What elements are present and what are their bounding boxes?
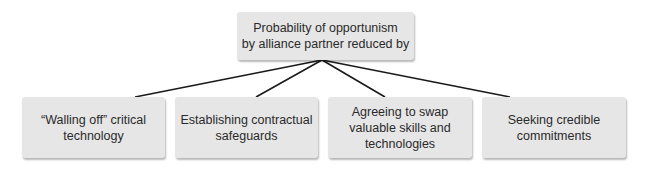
child-label-line2: commitments	[508, 128, 600, 144]
root-node: Probability of opportunism by alliance p…	[237, 12, 414, 60]
root-label-line1: Probability of opportunism	[242, 20, 409, 36]
child-label-line2: technology	[41, 128, 146, 144]
child-label-line1: “Walling off” critical	[41, 112, 146, 128]
child-label-line1: Agreeing to swap	[349, 104, 450, 120]
child-label-line1: Seeking credible	[508, 112, 600, 128]
child-node-credible-commitments: Seeking credible commitments	[482, 97, 626, 158]
child-label-line2: valuable skills and	[349, 120, 450, 136]
child-label-line3: technologies	[349, 136, 450, 152]
child-label-line2: safeguards	[180, 128, 312, 144]
root-label-line2: by alliance partner reduced by	[242, 36, 409, 52]
child-node-walling-off: “Walling off” critical technology	[22, 97, 165, 158]
child-node-swap-skills: Agreeing to swap valuable skills and tec…	[328, 97, 472, 158]
child-label-line1: Establishing contractual	[180, 112, 312, 128]
child-node-contractual-safeguards: Establishing contractual safeguards	[175, 97, 318, 158]
